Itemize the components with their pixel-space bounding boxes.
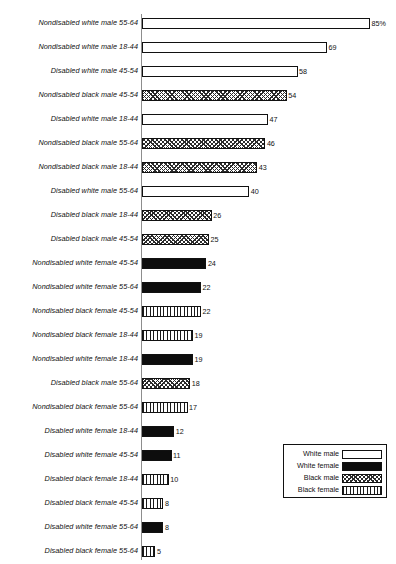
bar-value-label: 40 bbox=[251, 186, 259, 197]
bar-row-label: Nondisabled white female 45-54 bbox=[0, 258, 138, 268]
bar-row: Nondisabled black female 45-5422 bbox=[0, 302, 396, 326]
bar-row-label: Disabled white male 18-44 bbox=[0, 114, 138, 124]
legend-swatch-white-male bbox=[342, 450, 382, 459]
bar-row-label: Nondisabled black male 55-64 bbox=[0, 138, 138, 148]
bar-row: Disabled white male 55-6440 bbox=[0, 182, 396, 206]
bar-row-label: Nondisabled black male 18-44 bbox=[0, 162, 138, 172]
bar-container: 58 bbox=[142, 65, 307, 77]
bar-value-label: 17 bbox=[189, 402, 197, 413]
bar-white-male bbox=[142, 114, 268, 125]
bar-value-label: 8 bbox=[165, 498, 169, 509]
bar-container: 40 bbox=[142, 185, 259, 197]
bar-black-female bbox=[142, 546, 155, 557]
legend-swatch-black-female bbox=[342, 486, 382, 495]
legend-swatch-white-female bbox=[342, 462, 382, 471]
bar-container: 25 bbox=[142, 233, 219, 245]
bar-container: 22 bbox=[142, 281, 211, 293]
bar-black-male bbox=[142, 138, 265, 149]
bar-row: Nondisabled white male 18-4469 bbox=[0, 38, 396, 62]
bar-black-male bbox=[142, 378, 190, 389]
bar-row-label: Nondisabled black female 45-54 bbox=[0, 306, 138, 316]
bar-black-female bbox=[142, 306, 201, 317]
bar-container: 19 bbox=[142, 353, 202, 365]
bar-row: Nondisabled black female 18-4419 bbox=[0, 326, 396, 350]
bar-container: 47 bbox=[142, 113, 278, 125]
bar-container: 8 bbox=[142, 497, 169, 509]
bar-row: Disabled white male 45-5458 bbox=[0, 62, 396, 86]
bar-value-label: 26 bbox=[213, 210, 221, 221]
bar-row-label: Nondisabled white male 55-64 bbox=[0, 18, 138, 28]
bar-value-label: 18 bbox=[192, 378, 200, 389]
bar-row-label: Disabled black female 18-44 bbox=[0, 474, 138, 484]
bar-value-label: 12 bbox=[176, 426, 184, 437]
bar-black-male bbox=[142, 162, 257, 173]
legend-item-label: Black male bbox=[304, 473, 339, 483]
bar-value-label: 19 bbox=[194, 354, 202, 365]
bar-container: 43 bbox=[142, 161, 267, 173]
bar-black-male bbox=[142, 234, 209, 245]
bar-row-label: Disabled black male 18-44 bbox=[0, 210, 138, 220]
bar-white-female bbox=[142, 450, 172, 461]
bar-white-male bbox=[142, 42, 327, 53]
bar-row: Nondisabled black male 18-4443 bbox=[0, 158, 396, 182]
legend-item: White female bbox=[287, 460, 382, 472]
bar-container: 12 bbox=[142, 425, 184, 437]
bar-row: Nondisabled black female 55-6417 bbox=[0, 398, 396, 422]
bar-row-label: Nondisabled white female 18-44 bbox=[0, 354, 138, 364]
bar-row: Nondisabled white female 45-5424 bbox=[0, 254, 396, 278]
bar-row: Disabled black male 45-5425 bbox=[0, 230, 396, 254]
bar-value-label: 24 bbox=[208, 258, 216, 269]
bar-row-label: Disabled white male 55-64 bbox=[0, 186, 138, 196]
bar-white-female bbox=[142, 426, 174, 437]
bar-row: Disabled black male 18-4426 bbox=[0, 206, 396, 230]
bar-row-label: Disabled black female 45-54 bbox=[0, 498, 138, 508]
bar-white-female bbox=[142, 282, 201, 293]
bar-row: Nondisabled white female 55-6422 bbox=[0, 278, 396, 302]
bar-row-label: Nondisabled black female 55-64 bbox=[0, 402, 138, 412]
bar-white-male bbox=[142, 66, 298, 77]
bar-value-label: 58 bbox=[299, 66, 307, 77]
legend-items: White maleWhite femaleBlack maleBlack fe… bbox=[287, 448, 382, 496]
bar-row: Nondisabled black male 55-6446 bbox=[0, 134, 396, 158]
bar-black-female bbox=[142, 474, 169, 485]
bar-white-male bbox=[142, 186, 249, 197]
bar-row-label: Disabled black male 55-64 bbox=[0, 378, 138, 388]
bar-container: 5 bbox=[142, 545, 161, 557]
bar-row-label: Nondisabled black female 18-44 bbox=[0, 330, 138, 340]
bar-row: Disabled black male 55-6418 bbox=[0, 374, 396, 398]
bar-white-male bbox=[142, 18, 370, 29]
bar-value-label: 22 bbox=[203, 282, 211, 293]
bar-container: 18 bbox=[142, 377, 200, 389]
bar-black-female bbox=[142, 402, 188, 413]
bar-row-label: Nondisabled white female 55-64 bbox=[0, 282, 138, 292]
bar-value-label: 5 bbox=[157, 546, 161, 557]
bar-container: 69 bbox=[142, 41, 337, 53]
bar-row: Nondisabled white female 18-4419 bbox=[0, 350, 396, 374]
bar-container: 11 bbox=[142, 449, 180, 461]
legend-item: Black female bbox=[287, 484, 382, 496]
bar-value-label: 69 bbox=[329, 42, 337, 53]
bar-black-male bbox=[142, 210, 212, 221]
bar-container: 19 bbox=[142, 329, 202, 341]
legend-item-label: Black female bbox=[298, 485, 339, 495]
bar-black-male bbox=[142, 90, 287, 101]
legend-item: White male bbox=[287, 448, 382, 460]
bar-row-label: Disabled black male 45-54 bbox=[0, 234, 138, 244]
chart-legend: White maleWhite femaleBlack maleBlack fe… bbox=[283, 444, 387, 498]
bar-container: 54 bbox=[142, 89, 296, 101]
bar-row-label: Disabled white female 45-54 bbox=[0, 450, 138, 460]
bar-container: 17 bbox=[142, 401, 197, 413]
bar-value-label: 47 bbox=[270, 114, 278, 125]
bar-value-label: 22 bbox=[203, 306, 211, 317]
bar-black-female bbox=[142, 498, 163, 509]
bar-row: Disabled black female 55-645 bbox=[0, 542, 396, 564]
bar-row-label: Nondisabled black male 45-54 bbox=[0, 90, 138, 100]
bar-value-label: 11 bbox=[173, 450, 180, 461]
bar-black-female bbox=[142, 330, 193, 341]
bar-container: 22 bbox=[142, 305, 211, 317]
bar-value-label: 85% bbox=[372, 18, 386, 29]
bar-value-label: 10 bbox=[170, 474, 178, 485]
bar-container: 85% bbox=[142, 17, 386, 29]
bar-row-label: Disabled white female 55-64 bbox=[0, 522, 138, 532]
